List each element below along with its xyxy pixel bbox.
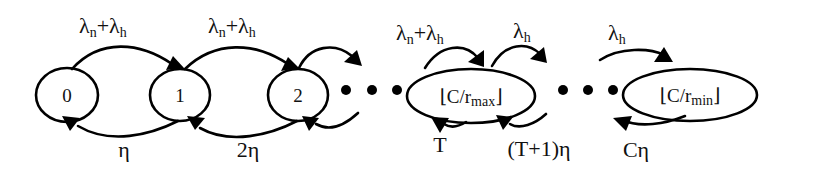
state-label-0: 0 (62, 85, 72, 106)
rate-label-1-to-2: λn+λh (208, 13, 256, 40)
arrow-next-to-rmax (496, 114, 546, 130)
rate-label-1-to-0: η (118, 137, 130, 162)
rate-label-to-rmin: λh (608, 20, 626, 47)
state-node-c-over-rmin: ⌊C/rmin⌋ (623, 69, 757, 121)
ellipsis-dots-left (341, 85, 402, 95)
rate-label-rmax-back: T (433, 132, 447, 157)
arrow-prev-to-rmax (425, 48, 484, 68)
arrow-prev-to-rmin (600, 47, 673, 62)
arrow-rmax-to-next (492, 46, 547, 66)
state-node-2: 2 (268, 69, 328, 121)
state-node-1: 1 (150, 69, 210, 121)
arrow-2-to-1 (187, 116, 297, 137)
rate-label-to-rmax-back: (T+1)η (507, 136, 570, 161)
arrow-0-to-1 (72, 47, 184, 70)
arrow-2-to-next (299, 48, 362, 68)
rate-label-to-rmax: λn+λh (396, 20, 444, 47)
state-label-1: 1 (175, 85, 185, 106)
arrow-1-to-2 (185, 47, 299, 71)
rate-label-0-to-1: λn+λh (79, 13, 127, 40)
state-label-2: 2 (293, 85, 303, 106)
rate-label-rmin-back: Cη (623, 137, 649, 162)
state-node-c-over-rmax: ⌊C/rmax⌋ (407, 69, 535, 123)
ellipsis-dots-right (558, 85, 618, 95)
markov-chain-diagram: 0 1 2 ⌊C/rmax⌋ ⌊C/rmin⌋ (0, 0, 813, 176)
rate-label-from-rmax: λh (513, 18, 531, 45)
rate-label-2-to-1: 2η (237, 137, 260, 162)
state-node-0: 0 (36, 68, 98, 122)
